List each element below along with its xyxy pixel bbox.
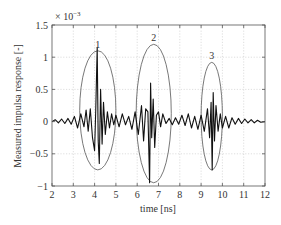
- burst-label-1: 1: [95, 39, 100, 50]
- burst-label-3: 3: [209, 50, 214, 61]
- y-tick-label: 0.5: [36, 84, 49, 95]
- y-axis-label: Measured impulsa response [-]: [12, 44, 23, 168]
- y-tick-label: −0.5: [30, 148, 48, 159]
- x-tick-label: 4: [92, 189, 97, 200]
- impulse-response-chart: 23456789101112 −1−0.500.511.5 123 × 10−3…: [0, 0, 281, 225]
- grid-lines: [52, 25, 265, 186]
- x-tick-label: 2: [50, 189, 55, 200]
- x-tick-label: 5: [113, 189, 118, 200]
- y-tick-label: 1.5: [36, 20, 49, 31]
- y-multiplier-label: × 10−3: [55, 10, 81, 22]
- x-tick-label: 9: [199, 189, 204, 200]
- burst-label-2: 2: [151, 32, 156, 43]
- x-axis-label: time [ns]: [140, 203, 176, 214]
- x-tick-label: 8: [177, 189, 182, 200]
- annotation-labels: 123: [95, 32, 214, 61]
- x-tick-label: 12: [260, 189, 270, 200]
- y-tick-label: 0: [43, 116, 48, 127]
- x-tick-label: 6: [135, 189, 140, 200]
- x-tick-label: 11: [239, 189, 249, 200]
- x-tick-label: 7: [156, 189, 161, 200]
- y-tick-label: −1: [37, 181, 48, 192]
- y-tick-labels: −1−0.500.511.5: [30, 20, 48, 192]
- axis-ticks: [52, 25, 265, 186]
- plot-frame: [52, 25, 265, 186]
- x-tick-label: 3: [71, 189, 76, 200]
- x-tick-label: 10: [217, 189, 227, 200]
- y-tick-label: 1: [43, 52, 48, 63]
- x-tick-labels: 23456789101112: [50, 189, 271, 200]
